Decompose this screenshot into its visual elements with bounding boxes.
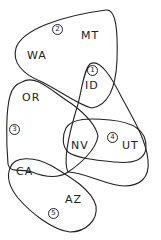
state-label-nv: NV [71,140,89,151]
group-3-outline [7,80,98,177]
group-1-outline [66,63,148,186]
state-label-id: ID [85,80,99,91]
group-number-5: 5 [48,208,59,219]
state-label-mt: MT [81,30,99,41]
state-label-ut: UT [122,140,139,151]
group-number-3: 3 [9,124,20,135]
state-label-or: OR [22,92,40,103]
group-number-4: 4 [107,132,118,143]
group-number-1: 1 [87,65,98,76]
group-number-2: 2 [52,24,63,35]
state-label-az: AZ [65,194,82,205]
state-label-ca: CA [16,166,33,177]
state-label-wa: WA [27,50,47,61]
